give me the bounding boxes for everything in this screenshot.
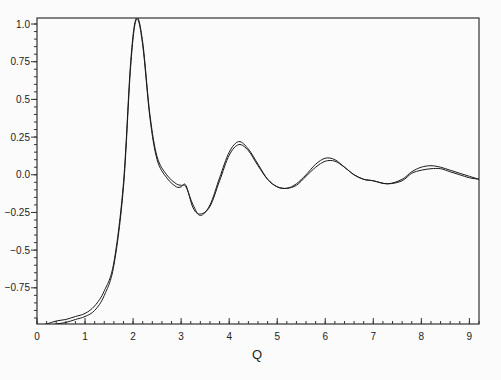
y-tick-label: −0.25 <box>5 207 31 218</box>
y-tick-label: 1.0 <box>16 19 30 30</box>
x-tick-label: 3 <box>178 331 184 342</box>
y-tick-label: 0.75 <box>11 56 31 67</box>
x-tick-label: 6 <box>322 331 328 342</box>
x-tick-label: 5 <box>274 331 280 342</box>
y-tick-label: 0.25 <box>11 132 31 143</box>
x-tick-label: 2 <box>130 331 136 342</box>
y-tick-label: 0.0 <box>16 169 30 180</box>
x-axis: 0123456789 <box>34 318 479 342</box>
x-axis-label: Q <box>252 347 262 362</box>
y-tick-label: 0.5 <box>16 94 30 105</box>
chart-canvas: 1.00.750.50.250.0−0.25−0.5−0.75 01234567… <box>0 0 501 380</box>
x-tick-label: 0 <box>34 331 40 342</box>
x-tick-label: 1 <box>82 331 88 342</box>
y-tick-label: −0.5 <box>10 245 30 256</box>
x-tick-label: 8 <box>419 331 425 342</box>
y-axis: 1.00.750.50.250.0−0.25−0.5−0.75 <box>5 19 37 318</box>
data-series <box>37 17 479 325</box>
x-tick-label: 7 <box>371 331 377 342</box>
y-tick-label: −0.75 <box>5 282 31 293</box>
series-line-2 <box>37 19 479 326</box>
x-tick-label: 9 <box>467 331 473 342</box>
x-tick-label: 4 <box>226 331 232 342</box>
series-line-1 <box>37 17 479 325</box>
